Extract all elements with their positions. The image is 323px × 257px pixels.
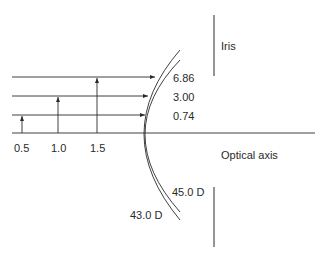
height-label-0-5: 0.5 (14, 142, 29, 154)
power-label-43D: 43.0 D (130, 209, 162, 221)
iris-label: Iris (221, 40, 236, 52)
optical-axis-label: Optical axis (221, 149, 278, 161)
height-label-1-5: 1.5 (90, 142, 105, 154)
height-label-1-0: 1.0 (51, 142, 66, 154)
ray-value-6-86: 6.86 (173, 72, 194, 84)
ray-value-3-00: 3.00 (173, 91, 194, 103)
power-label-45D: 45.0 D (172, 186, 204, 198)
cornea-optics-diagram: Iris Optical axis 6.86 3.00 0.74 0.5 1.0… (0, 0, 323, 257)
ray-value-0-74: 0.74 (173, 110, 194, 122)
